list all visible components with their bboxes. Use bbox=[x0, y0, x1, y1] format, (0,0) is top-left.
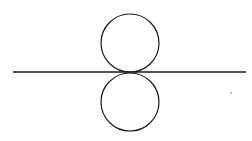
small-dot bbox=[230, 92, 231, 93]
background bbox=[0, 0, 252, 141]
diagram-figure bbox=[0, 0, 252, 141]
